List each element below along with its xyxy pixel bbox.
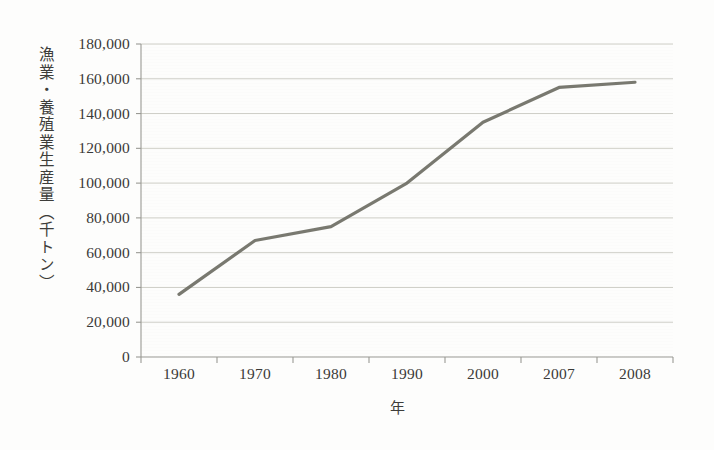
- x-axis-tick-label: 1980: [296, 366, 366, 382]
- x-axis-title: 年: [0, 396, 714, 417]
- x-axis-tick-label: 2000: [448, 366, 518, 382]
- y-axis-tick-label: 160,000: [52, 71, 130, 87]
- x-axis-ticks: [141, 357, 673, 363]
- y-axis-tick-labels: 020,00040,00060,00080,000100,000120,0001…: [52, 44, 130, 357]
- y-axis-tick-label: 60,000: [52, 245, 130, 261]
- axis-lines: [141, 44, 673, 357]
- y-axis-tick-label: 180,000: [52, 36, 130, 52]
- data-series-line: [179, 82, 635, 294]
- x-axis-tick-label: 2008: [600, 366, 670, 382]
- series-polyline: [179, 82, 635, 294]
- y-axis-tick-label: 80,000: [52, 210, 130, 226]
- x-axis-tick-label: 1970: [220, 366, 290, 382]
- y-axis-tick-label: 140,000: [52, 106, 130, 122]
- x-axis-tick-labels: 1960197019801990200020072008: [141, 366, 673, 392]
- y-axis-tick-label: 20,000: [52, 314, 130, 330]
- y-axis-ticks: [136, 44, 141, 357]
- x-axis-tick-label: 1960: [144, 366, 214, 382]
- plot-area: [141, 44, 673, 357]
- y-axis-title: 漁業・養殖業生産量（千トン）: [22, 46, 52, 346]
- y-axis-tick-label: 40,000: [52, 280, 130, 296]
- line-chart-svg: [141, 44, 673, 357]
- y-axis-tick-label: 100,000: [52, 175, 130, 191]
- x-axis-tick-label: 2007: [524, 366, 594, 382]
- x-axis-tick-label: 1990: [372, 366, 442, 382]
- chart-figure: 漁業・養殖業生産量（千トン） 020,00040,00060,00080,000…: [0, 0, 714, 450]
- y-axis-tick-label: 0: [52, 349, 130, 365]
- y-axis-tick-label: 120,000: [52, 141, 130, 157]
